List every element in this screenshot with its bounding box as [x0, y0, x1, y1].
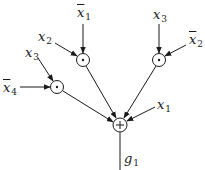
label-x4bar: x4 [3, 81, 17, 94]
edge-and-a-to-or [86, 66, 116, 118]
logic-diagram: x1 x2 x3 x2 x3 x4 x1 g1 [0, 0, 205, 170]
edge-x2-to-and-a [55, 43, 77, 56]
edge-x2bar-to-and-b [165, 45, 186, 56]
and-dot-icon [56, 86, 58, 88]
edge-x1-to-or [127, 107, 155, 121]
label-x2: x2 [38, 30, 52, 43]
label-g1-output: g1 [124, 152, 139, 165]
diagram-canvas [0, 0, 205, 170]
label-x3-left: x3 [25, 46, 39, 59]
and-dot-icon [82, 59, 84, 61]
and-dot-icon [158, 59, 160, 61]
label-x3-right: x3 [153, 8, 167, 21]
label-x2bar: x2 [189, 33, 203, 46]
label-x1: x1 [157, 98, 171, 111]
label-x1bar: x1 [77, 6, 91, 19]
edge-and-b-to-or [124, 66, 156, 118]
edge-and-c-to-or [63, 91, 113, 122]
edge-x3-to-and-c [38, 58, 53, 81]
